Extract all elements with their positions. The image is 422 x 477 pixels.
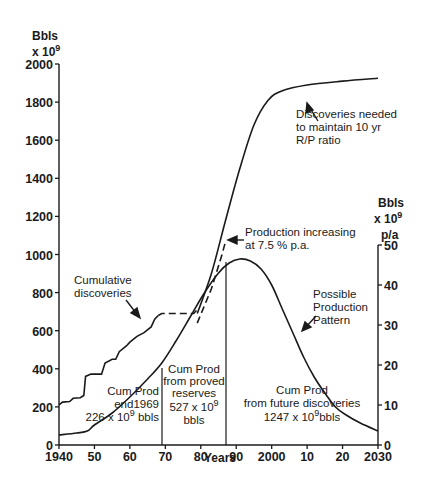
left-tick-label: 1200	[25, 210, 53, 224]
annotation-possible-3: Pattern	[313, 314, 350, 326]
svg-text:Cum Prod: Cum Prod	[107, 385, 159, 397]
svg-text:Cum Prod: Cum Prod	[168, 363, 220, 375]
annotation-cumulative-discoveries-2: discoveries	[74, 287, 132, 299]
svg-text:226 x 109 bbls: 226 x 109 bbls	[86, 408, 160, 423]
right-axis-ticks: 01020304050	[378, 239, 398, 453]
x-tick-label: 60	[123, 450, 137, 464]
x-tick-label: 70	[158, 450, 172, 464]
left-unit-multiplier: x 109	[32, 43, 60, 59]
left-tick-label: 600	[32, 325, 53, 339]
chart: 0200400600800100012001400160018002000 01…	[0, 0, 422, 477]
annotation-possible-1: Possible	[313, 288, 356, 300]
left-tick-label: 200	[32, 401, 53, 415]
right-unit-label: Bbls	[378, 196, 404, 210]
arrows	[126, 103, 318, 331]
svg-text:reserves: reserves	[172, 387, 216, 399]
annotation-needed-3: R/P ratio	[296, 134, 341, 146]
x-tick-label: 1940	[45, 450, 73, 464]
left-axis-ticks: 0200400600800100012001400160018002000	[25, 58, 59, 453]
right-unit-per-annum: p/a	[381, 228, 399, 242]
svg-text:from proved: from proved	[163, 375, 224, 387]
right-tick-label: 10	[384, 399, 398, 413]
annotation-needed-2: to maintain 10 yr	[296, 121, 381, 133]
right-tick-label: 30	[384, 319, 398, 333]
right-tick-label: 20	[384, 359, 398, 373]
x-axis-title: Years	[204, 451, 236, 465]
x-tick-label: 20	[336, 450, 350, 464]
right-unit-multiplier: x 109	[374, 210, 402, 226]
right-tick-label: 40	[384, 279, 398, 293]
x-tick-label: 10	[300, 450, 314, 464]
region-label-end1969: Cum Prod end1969 226 x 109 bbls	[86, 385, 160, 423]
region-label-future-discoveries: Cum Prod from future discoveries 1247 x …	[244, 384, 361, 423]
left-tick-label: 1800	[25, 96, 53, 110]
left-tick-label: 1000	[25, 249, 53, 263]
x-tick-label: 2030	[364, 450, 392, 464]
left-tick-label: 400	[32, 363, 53, 377]
annotation-cumulative-discoveries-1: Cumulative	[74, 274, 132, 286]
annotation-needed-1: Discoveries needed	[296, 108, 397, 120]
x-tick-label: 50	[87, 450, 101, 464]
left-tick-label: 1600	[25, 134, 53, 148]
x-tick-label: 2000	[258, 450, 286, 464]
svg-text:end1969: end1969	[114, 398, 159, 410]
region-label-proved-reserves: Cum Prod from proved reserves 527 x 109 …	[163, 363, 224, 426]
svg-text:bbls: bbls	[183, 414, 204, 426]
svg-text:1247 x 109bbls: 1247 x 109bbls	[264, 408, 341, 423]
annotation-production-increasing-1: Production increasing	[245, 226, 356, 238]
annotation-possible-2: Production	[313, 301, 368, 313]
left-tick-label: 800	[32, 287, 53, 301]
left-unit-label: Bbls	[32, 29, 58, 43]
svg-text:Cum Prod: Cum Prod	[276, 384, 328, 396]
left-tick-label: 2000	[25, 58, 53, 72]
svg-text:527 x 109: 527 x 109	[169, 398, 218, 413]
svg-text:from future discoveries: from future discoveries	[244, 397, 361, 409]
left-tick-label: 1400	[25, 172, 53, 186]
annotation-production-increasing-2: at 7.5 % p.a.	[245, 239, 310, 251]
